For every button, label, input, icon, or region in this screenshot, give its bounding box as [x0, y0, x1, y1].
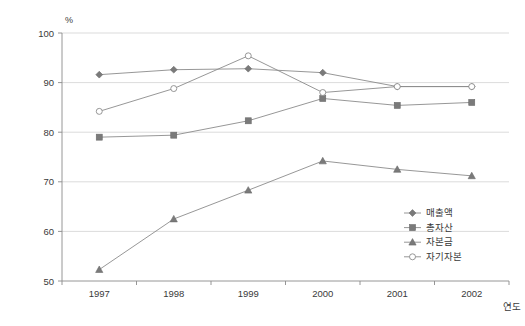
legend-marker-0-point-0 [409, 210, 416, 217]
series-0-point-3 [319, 69, 326, 76]
y-tick-label-60: 60 [43, 226, 54, 237]
series-1-point-0 [96, 134, 102, 140]
series-3-point-1 [171, 86, 177, 92]
series-3-point-5 [469, 84, 475, 90]
legend-label-1: 총자산 [426, 222, 453, 233]
series-3-point-2 [245, 53, 251, 59]
series-2-point-2 [245, 187, 252, 193]
series-2-point-0 [96, 266, 103, 272]
x-tick-label-2002: 2002 [461, 288, 482, 299]
series-3-point-4 [394, 84, 400, 90]
series-2-point-3 [319, 157, 326, 163]
legend-marker-1-point-0 [410, 225, 416, 231]
series-line-0 [99, 69, 472, 87]
series-line-3 [99, 56, 472, 112]
y-tick-label-90: 90 [43, 77, 54, 88]
series-1-point-5 [469, 99, 475, 105]
y-tick-label-80: 80 [43, 127, 54, 138]
series-3-point-0 [96, 108, 102, 114]
legend-label-2: 자본금 [426, 236, 453, 247]
x-tick-label-2000: 2000 [312, 288, 333, 299]
y-tick-label-100: 100 [38, 28, 54, 39]
series-0-point-0 [96, 71, 103, 78]
x-tick-label-1997: 1997 [89, 288, 110, 299]
chart-container: 5060708090100%199719981999200020012002연도… [0, 0, 525, 326]
series-line-2 [99, 161, 472, 270]
y-tick-label-70: 70 [43, 176, 54, 187]
series-1-point-1 [171, 132, 177, 138]
series-1-point-3 [320, 95, 326, 101]
series-0-point-1 [170, 66, 177, 73]
series-line-1 [99, 98, 472, 137]
x-tick-label-1998: 1998 [163, 288, 184, 299]
x-axis-label: 연도 [503, 301, 521, 312]
x-tick-label-1999: 1999 [238, 288, 259, 299]
series-2-point-1 [170, 215, 177, 221]
legend-label-3: 자기자본 [426, 251, 462, 262]
series-1-point-4 [394, 102, 400, 108]
y-tick-label-50: 50 [43, 276, 54, 287]
series-3-point-3 [320, 90, 326, 96]
x-tick-label-2001: 2001 [387, 288, 408, 299]
legend-label-0: 매출액 [426, 207, 453, 218]
legend-marker-3-point-0 [410, 254, 416, 260]
line-chart: 5060708090100%199719981999200020012002연도… [0, 0, 525, 326]
y-axis-unit-label: % [65, 15, 73, 25]
series-0-point-2 [245, 65, 252, 72]
series-1-point-2 [245, 118, 251, 124]
